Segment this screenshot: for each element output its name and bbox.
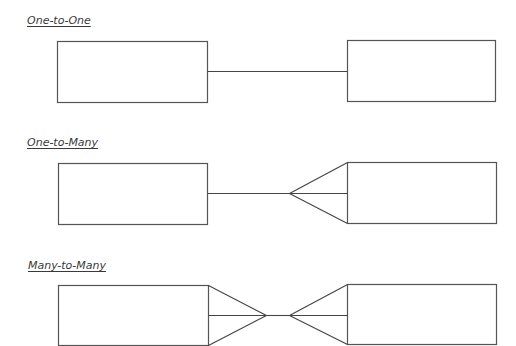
one-to-one-diagram <box>58 41 496 103</box>
er-relationship-diagram <box>0 0 516 346</box>
entity-box-left <box>58 42 208 103</box>
entity-box-right <box>348 163 497 224</box>
crows-foot-many-icon-right <box>290 285 348 345</box>
entity-box-left <box>59 164 208 225</box>
crows-foot-many-icon <box>290 163 348 224</box>
entity-box-right <box>348 285 497 345</box>
one-to-many-diagram <box>59 163 497 225</box>
entity-box-right <box>348 41 496 102</box>
many-to-many-diagram <box>59 285 497 346</box>
crows-foot-many-icon-left <box>209 286 267 346</box>
entity-box-left <box>59 286 209 346</box>
